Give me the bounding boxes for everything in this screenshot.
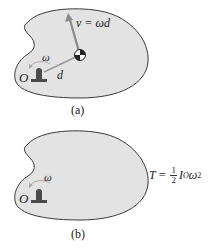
center-of-mass-icon [75,50,86,61]
rigid-body-b [15,131,148,220]
eq-frac-den: 2 [171,176,176,185]
caption-b: (b) [71,228,85,240]
omega-label-a: ω [42,52,50,63]
velocity-label: v = ωd [76,17,110,29]
pivot-label-b: O [19,192,28,205]
caption-a: (a) [71,104,84,116]
pivot-label-a: O [19,71,28,84]
eq-fraction: 1 2 [170,166,177,185]
figure-canvas [0,0,208,248]
velocity-var: v [76,16,81,30]
omega-label-b: ω [44,172,52,183]
velocity-expr: = ωd [84,16,110,30]
eq-power: 2 [197,171,201,180]
kinetic-energy-equation: T = 1 2 IOω2 [149,166,201,185]
eq-equals: = [159,168,166,183]
eq-lhs: T [149,168,156,183]
eq-omega: ω [189,168,197,183]
distance-label: d [57,69,63,81]
